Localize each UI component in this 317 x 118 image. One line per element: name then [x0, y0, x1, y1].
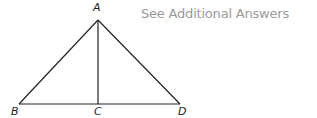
segment-ad [98, 20, 180, 104]
see-additional-answers-note: See Additional Answers [141, 6, 289, 21]
vertex-label-d: D [178, 106, 186, 117]
vertex-label-c: C [94, 106, 102, 117]
vertex-label-a: A [93, 2, 101, 13]
segment-ab [19, 20, 98, 104]
vertex-label-b: B [11, 106, 19, 117]
